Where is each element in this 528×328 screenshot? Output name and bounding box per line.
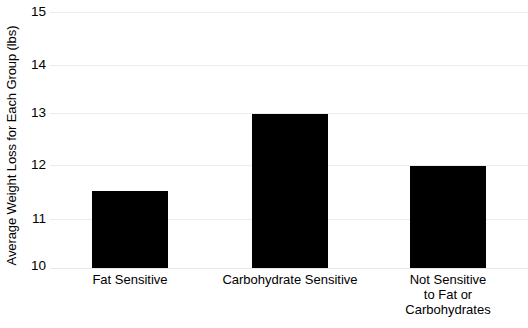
gridline-10-baseline <box>50 268 528 269</box>
gridline-11 <box>50 219 528 220</box>
bar-chart: Average Weight Loss for Each Group (lbs)… <box>0 0 528 328</box>
x-tick-label-carbohydrate-sensitive: Carbohydrate Sensitive <box>215 272 365 287</box>
bar-fat-sensitive <box>92 191 168 268</box>
bar-not-sensitive <box>410 166 486 268</box>
y-tick-label-14: 14 <box>6 58 46 72</box>
bar-carbohydrate-sensitive <box>252 114 328 268</box>
gridline-13 <box>50 113 528 114</box>
x-tick-label-line: Not Sensitive <box>383 272 513 287</box>
y-axis-title: Average Weight Loss for Each Group (lbs) <box>0 0 24 290</box>
gridline-14 <box>50 65 528 66</box>
y-tick-label-13: 13 <box>6 106 46 120</box>
y-tick-label-11: 11 <box>6 212 46 226</box>
x-tick-label-fat-sensitive: Fat Sensitive <box>60 272 200 287</box>
y-tick-label-12: 12 <box>6 158 46 172</box>
x-tick-label-line: to Fat or <box>383 287 513 302</box>
x-tick-label-line: Carbohydrate Sensitive <box>215 272 365 287</box>
y-tick-label-10: 10 <box>6 259 46 273</box>
gridline-15 <box>50 12 528 13</box>
x-tick-label-line: Fat Sensitive <box>60 272 200 287</box>
y-tick-label-15: 15 <box>6 5 46 19</box>
x-tick-label-not-sensitive: Not Sensitiveto Fat orCarbohydrates <box>383 272 513 317</box>
gridline-12 <box>50 165 528 166</box>
x-tick-label-line: Carbohydrates <box>383 302 513 317</box>
